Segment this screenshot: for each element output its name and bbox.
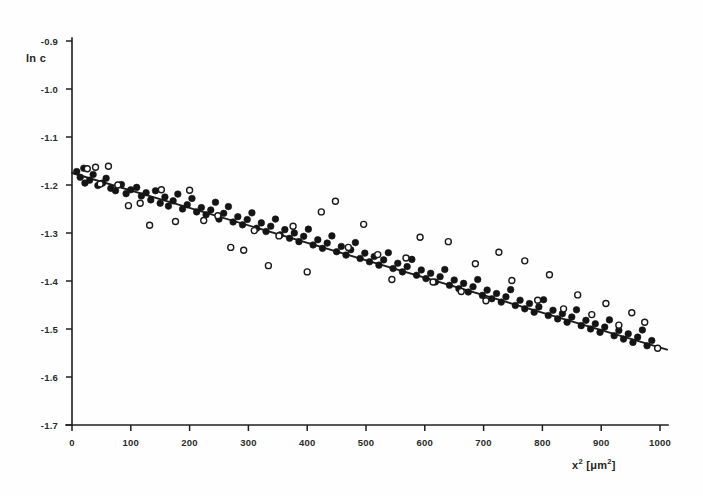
x-axis-title: x2 [μm2] xyxy=(572,457,616,471)
plot-canvas xyxy=(0,0,703,496)
y-tick-label: -1.4 xyxy=(14,276,58,287)
y-tick-label: -1.5 xyxy=(14,324,58,335)
y-tick-label: -1.2 xyxy=(14,180,58,191)
x-tick-label: 400 xyxy=(299,437,315,448)
x-axis-unit-close: ] xyxy=(612,459,616,471)
y-tick-label: -1.3 xyxy=(14,228,58,239)
x-tick-label: 800 xyxy=(534,437,550,448)
x-tick-label: 200 xyxy=(181,437,197,448)
x-tick-label: 100 xyxy=(123,437,139,448)
x-tick-label: 1000 xyxy=(649,437,671,448)
tick-marks xyxy=(66,41,660,431)
y-tick-label: -0.9 xyxy=(14,36,58,47)
x-tick-label: 600 xyxy=(417,437,433,448)
y-tick-label: -1.7 xyxy=(14,420,58,431)
x-tick-label: 300 xyxy=(240,437,256,448)
scatter-plot-figure: ln c x2 [μm2] -0.9-1.0-1.1-1.2-1.3-1.4-1… xyxy=(0,0,703,496)
y-tick-label: -1.1 xyxy=(14,132,58,143)
x-tick-label: 700 xyxy=(475,437,491,448)
x-axis-unit: μm xyxy=(590,459,607,471)
y-tick-label: -1.0 xyxy=(14,84,58,95)
x-tick-label: 0 xyxy=(69,437,74,448)
y-axis-title: ln c xyxy=(26,52,46,64)
x-tick-label: 900 xyxy=(593,437,609,448)
axis-lines xyxy=(66,38,668,425)
y-tick-label: -1.6 xyxy=(14,372,58,383)
x-tick-label: 500 xyxy=(358,437,374,448)
